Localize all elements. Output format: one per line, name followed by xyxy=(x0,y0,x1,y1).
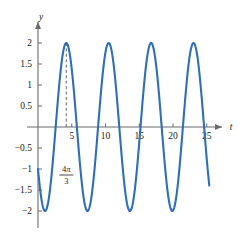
x-tick-label: 20 xyxy=(168,131,178,141)
y-tick-label: −0.5 xyxy=(15,143,32,153)
y-tick-label: 0.5 xyxy=(20,101,32,111)
y-tick-label: 1 xyxy=(27,80,32,90)
y-tick-label: 2 xyxy=(27,38,32,48)
x-tick-label: 10 xyxy=(101,131,111,141)
annotation-denominator: 3 xyxy=(64,176,68,186)
y-tick-label: −1 xyxy=(22,164,32,174)
x-axis-label: t xyxy=(230,122,233,132)
y-axis-label: y xyxy=(38,12,44,22)
y-tick-label: −1.5 xyxy=(15,185,32,195)
trig-function-plot: y t 510152025 21.510.5−0.5−1−1.5−2 4π 3 xyxy=(0,0,245,243)
x-tick-label: 25 xyxy=(202,131,212,141)
chart-container: y t 510152025 21.510.5−0.5−1−1.5−2 4π 3 xyxy=(0,0,245,243)
y-tick-label: −2 xyxy=(22,206,32,216)
x-tick-label: 5 xyxy=(69,131,74,141)
plot-background xyxy=(0,0,245,243)
y-tick-label: 1.5 xyxy=(20,59,32,69)
annotation-numerator: 4π xyxy=(62,164,71,174)
